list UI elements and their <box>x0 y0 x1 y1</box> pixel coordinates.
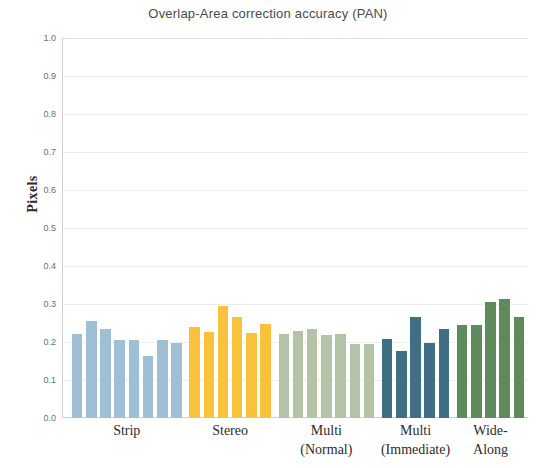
bar <box>189 327 200 418</box>
bar-chart: Overlap-Area correction accuracy (PAN) P… <box>0 0 536 468</box>
bar <box>293 331 304 418</box>
bar <box>410 317 421 418</box>
bar <box>499 299 510 418</box>
bar <box>485 302 496 418</box>
bars-layer <box>62 38 528 418</box>
bar <box>72 334 83 418</box>
bar <box>143 356 154 418</box>
y-tick-label: 0.2 <box>6 337 56 347</box>
y-tick-label: 0.3 <box>6 299 56 309</box>
bar <box>279 334 290 418</box>
bar <box>260 324 271 418</box>
bar <box>232 317 243 418</box>
bar <box>471 325 482 418</box>
bar <box>364 344 375 418</box>
x-axis-group-label-line1: Wide- <box>473 423 507 438</box>
x-axis-group-label-line1: Strip <box>113 423 140 438</box>
bar <box>350 344 361 418</box>
bar <box>100 329 111 418</box>
bar <box>114 340 125 418</box>
x-axis-group-label-line2: Along <box>431 440 536 459</box>
y-tick-label: 0.7 <box>6 147 56 157</box>
bar <box>204 332 215 418</box>
x-axis-group-label: Strip <box>67 421 187 440</box>
y-tick-label: 0.4 <box>6 261 56 271</box>
bar <box>439 329 450 418</box>
x-axis-group-labels: StripStereoMulti(Normal)Multi(Immediate)… <box>62 421 528 467</box>
bar <box>424 343 435 418</box>
bar <box>129 340 140 418</box>
chart-title: Overlap-Area correction accuracy (PAN) <box>0 6 536 21</box>
x-axis-group-label-line1: Stereo <box>212 423 248 438</box>
y-tick-label: 0.0 <box>6 413 56 423</box>
bar <box>321 335 332 418</box>
bar <box>514 317 525 418</box>
y-tick-label: 0.9 <box>6 71 56 81</box>
bar <box>157 340 168 418</box>
x-axis-group-label-line1: Multi <box>311 423 342 438</box>
y-axis-tick-labels: 1.00.90.80.70.60.50.40.30.20.10.0 <box>0 38 56 418</box>
bar <box>457 325 468 418</box>
bar <box>396 351 407 418</box>
y-tick-label: 0.6 <box>6 185 56 195</box>
y-tick-label: 1.0 <box>6 33 56 43</box>
bar <box>86 321 97 418</box>
y-tick-label: 0.1 <box>6 375 56 385</box>
bar <box>246 333 257 418</box>
x-axis-group-label-line1: Multi <box>400 423 431 438</box>
x-axis-group-label: Wide-Along <box>431 421 536 459</box>
bar <box>382 339 393 418</box>
bar <box>171 343 182 418</box>
bar <box>307 329 318 418</box>
y-tick-label: 0.5 <box>6 223 56 233</box>
y-tick-label: 0.8 <box>6 109 56 119</box>
bar <box>218 306 229 418</box>
bar <box>335 334 346 418</box>
